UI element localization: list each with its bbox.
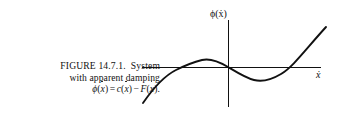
plot-area: ϕ(ẋ) ẋ bbox=[130, 2, 339, 118]
y-axis-label: ϕ(ẋ) bbox=[210, 8, 227, 20]
x-axis-label: ẋ bbox=[315, 69, 321, 80]
phi-curve bbox=[143, 27, 326, 103]
equation-rhs-argument-1: x bbox=[124, 83, 128, 95]
equation-equals-sign: = bbox=[108, 83, 117, 94]
equation-lhs-argument: x bbox=[101, 83, 105, 95]
figure-number-label: FIGURE 14.7.1. bbox=[60, 60, 126, 71]
figure-container: FIGURE 14.7.1.System with apparent dampi… bbox=[0, 0, 339, 118]
x-axis-label-text: ẋ bbox=[315, 69, 321, 80]
y-axis-label-text: ϕ(ẋ) bbox=[210, 8, 227, 20]
